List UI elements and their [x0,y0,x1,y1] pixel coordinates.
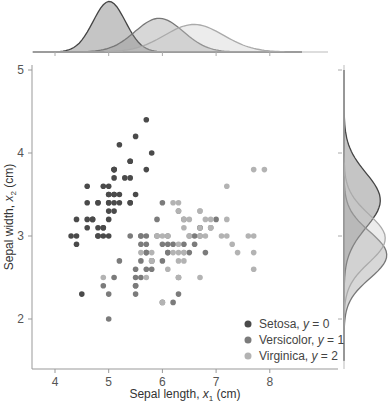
data-point [117,200,123,206]
data-point [203,250,209,256]
data-point [170,200,176,206]
x-tick-label: 5 [105,375,112,389]
data-point [160,242,166,248]
data-point [106,316,112,322]
data-point [197,275,203,281]
data-point [187,233,193,239]
y-axis-label: Sepal width, x2 (cm) [2,164,18,271]
data-point [176,275,182,281]
data-point [101,275,107,281]
data-point [251,266,257,272]
data-point [117,258,123,264]
data-point [133,134,139,140]
legend-marker [245,321,252,328]
data-point [165,233,171,239]
x-axis-label: Sepal length, x1 (cm) [129,387,240,403]
data-point [170,250,176,256]
data-point [74,217,80,223]
data-point [187,217,193,223]
data-point [68,233,74,239]
data-point [101,283,107,289]
data-point [165,250,171,256]
data-point [181,217,187,223]
data-point [74,242,80,248]
legend-label: Setosa, y = 0 [259,317,330,331]
data-point [144,242,150,248]
data-point [197,233,203,239]
data-point [127,200,133,206]
data-point [95,225,101,231]
data-point [219,233,225,239]
data-point [106,233,112,239]
legend-label: Virginica, y = 2 [259,349,338,363]
data-point [149,258,155,264]
x-tick-label: 4 [52,375,59,389]
legend: Setosa, y = 0Versicolor, y = 1Virginica,… [245,317,345,363]
data-point [133,266,139,272]
data-point [144,167,150,173]
data-point [176,242,182,248]
data-point [181,250,187,256]
data-point [165,266,171,272]
data-point [133,291,139,297]
data-point [203,233,209,239]
data-point [144,233,150,239]
data-point [106,217,112,223]
data-point [251,233,257,239]
data-point [181,242,187,248]
data-point [127,159,133,165]
data-point [95,233,101,239]
data-point [165,242,171,248]
kde-virginica [344,70,385,361]
data-point [111,275,117,281]
data-point [224,233,230,239]
data-point [133,275,139,281]
data-point [133,192,139,198]
data-point [181,258,187,264]
data-point [127,233,133,239]
data-point [106,291,112,297]
data-point [138,242,144,248]
data-point [154,217,160,223]
data-point [154,233,160,239]
data-point [192,233,198,239]
data-point [149,250,155,256]
y-tick-label: 4 [17,146,24,160]
data-point [176,208,182,214]
data-point [208,217,214,223]
iris-jointplot: 45678 2345 Sepal length, x1 (cm) Sepal w… [0,0,389,410]
data-point [181,225,187,231]
data-point [187,250,193,256]
data-point [74,233,80,239]
data-point [160,258,166,264]
data-point [106,208,112,214]
data-point [138,275,144,281]
data-point [224,183,230,189]
data-point [101,183,107,189]
data-point [149,266,155,272]
y-tick-label: 3 [17,229,24,243]
data-point [160,300,166,306]
data-point [84,200,90,206]
data-point [138,233,144,239]
data-point [106,192,112,198]
data-point [138,258,144,264]
data-point [235,250,241,256]
data-point [144,250,150,256]
y-ticks: 2345 [17,63,342,326]
y-tick-label: 5 [17,63,24,77]
data-point [224,217,230,223]
data-point [170,242,176,248]
data-point [144,275,150,281]
top-marginal-kde [32,2,328,53]
data-point [101,225,107,231]
data-point [122,175,128,181]
data-point [106,183,112,189]
data-point [262,167,268,173]
y-tick-label: 2 [17,312,24,326]
data-point [176,291,182,297]
data-point [138,250,144,256]
data-point [176,258,182,264]
data-point [176,200,182,206]
data-point [84,217,90,223]
